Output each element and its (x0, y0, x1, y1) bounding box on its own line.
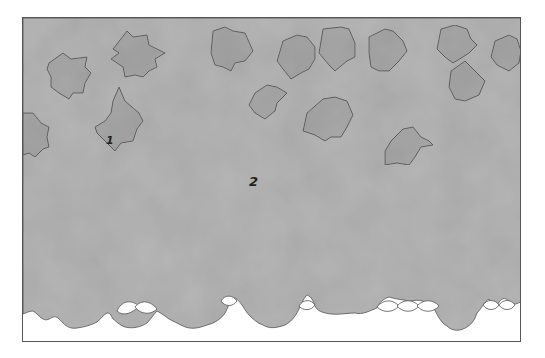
region-label-2: 2 (249, 174, 258, 189)
region-label-1: 1 (106, 134, 114, 147)
illustration-frame (22, 17, 521, 342)
region-2-background (23, 18, 521, 330)
illustration-canvas (23, 18, 521, 342)
